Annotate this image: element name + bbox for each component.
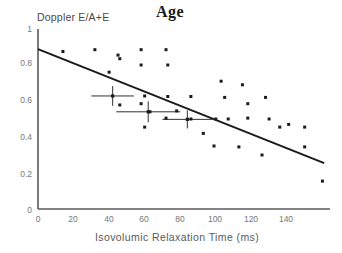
scatter-point — [93, 48, 96, 51]
scatter-point — [213, 145, 216, 148]
scatter-point — [143, 94, 146, 97]
scatter-point — [246, 117, 249, 120]
regression-line — [38, 49, 324, 163]
regression-trend-line — [38, 49, 324, 163]
errorbar-center-point — [186, 118, 189, 121]
scatter-point — [143, 126, 146, 129]
scatter-point — [261, 154, 264, 157]
errorbar-markers — [91, 86, 212, 128]
scatter-point — [303, 145, 306, 148]
scatter-point — [61, 50, 64, 53]
scatter-point — [214, 118, 217, 121]
scatter-point — [140, 102, 143, 105]
scatter-points — [61, 48, 324, 182]
scatter-point — [321, 180, 324, 183]
scatter-point — [241, 83, 244, 86]
scatter-point — [149, 110, 152, 113]
scatter-point — [223, 96, 226, 99]
chart-plot-area — [0, 0, 342, 253]
scatter-point — [140, 64, 143, 67]
scatter-point — [202, 132, 205, 135]
scatter-point — [237, 145, 240, 148]
scatter-point — [165, 48, 168, 51]
scatter-point — [140, 48, 143, 51]
scatter-point — [165, 117, 168, 120]
scatter-point — [117, 54, 120, 57]
scatter-point — [268, 118, 271, 121]
scatter-point — [246, 102, 249, 105]
scatter-point — [189, 95, 192, 98]
scatter-point — [264, 96, 267, 99]
errorbar-marker — [91, 86, 134, 106]
scatter-point — [108, 71, 111, 74]
scatter-point — [220, 80, 223, 83]
scatter-point — [118, 103, 121, 106]
errorbar-marker — [162, 110, 212, 128]
scatter-point — [189, 118, 192, 121]
scatter-point — [227, 118, 230, 121]
errorbar-center-point — [111, 94, 114, 97]
scatter-point — [118, 57, 121, 60]
scatter-point — [278, 126, 281, 129]
scatter-point — [175, 109, 178, 112]
chart-figure: Age Doppler E/A+E Isovolumic Relaxation … — [0, 0, 342, 253]
scatter-point — [287, 123, 290, 126]
scatter-point — [303, 126, 306, 129]
scatter-point — [166, 95, 169, 98]
scatter-point — [166, 64, 169, 67]
